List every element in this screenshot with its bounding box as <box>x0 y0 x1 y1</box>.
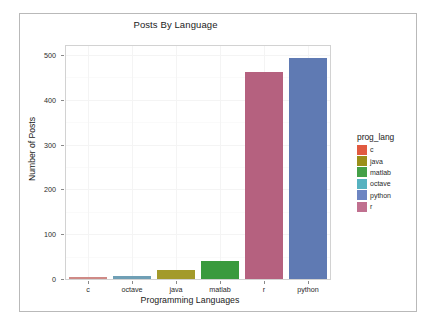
chart-title: Posts By Language <box>20 19 331 30</box>
legend-swatch-r <box>357 202 367 212</box>
y-tick-mark <box>61 55 64 56</box>
y-tick-label: 400 <box>30 95 56 104</box>
figure-frame: Posts By Language Number of Posts Progra… <box>19 13 417 312</box>
legend-label-r: r <box>370 203 372 210</box>
legend-entry-octave[interactable]: octave <box>357 178 394 189</box>
bar-octave <box>113 276 151 279</box>
y-tick-label: 100 <box>30 230 56 239</box>
x-tick-mark <box>264 281 265 284</box>
x-tick-mark <box>308 281 309 284</box>
gridline-vertical <box>88 46 89 279</box>
legend: prog_lang cjavamatlaboctavepythonr <box>357 132 394 212</box>
x-tick-label-c: c <box>86 285 90 294</box>
legend-swatch-python <box>357 190 367 200</box>
gridline-horizontal <box>66 279 330 280</box>
y-tick-label: 300 <box>30 140 56 149</box>
y-tick-mark <box>61 145 64 146</box>
legend-entry-python[interactable]: python <box>357 190 394 201</box>
y-tick-mark <box>61 189 64 190</box>
bar-c <box>69 277 107 279</box>
gridline-vertical <box>220 46 221 279</box>
x-tick-mark <box>132 281 133 284</box>
legend-entry-c[interactable]: c <box>357 144 394 155</box>
legend-entries: cjavamatlaboctavepythonr <box>357 144 394 212</box>
y-tick-mark <box>61 279 64 280</box>
bar-java <box>157 270 195 279</box>
x-tick-mark <box>220 281 221 284</box>
legend-entry-java[interactable]: java <box>357 155 394 166</box>
legend-swatch-java <box>357 156 367 166</box>
x-tick-label-python: python <box>297 285 319 294</box>
legend-entry-r[interactable]: r <box>357 201 394 212</box>
x-tick-label-r: r <box>263 285 265 294</box>
y-tick-label: 500 <box>30 50 56 59</box>
legend-title: prog_lang <box>357 132 394 142</box>
plot-panel <box>65 45 331 280</box>
y-tick-mark <box>61 100 64 101</box>
legend-label-matlab: matlab <box>370 169 391 176</box>
x-axis-title: Programming Languages <box>45 295 335 305</box>
legend-entry-matlab[interactable]: matlab <box>357 167 394 178</box>
x-tick-label-java: java <box>169 285 182 294</box>
bar-python <box>289 58 327 279</box>
legend-swatch-c <box>357 145 367 155</box>
legend-swatch-octave <box>357 179 367 189</box>
legend-label-c: c <box>370 146 374 153</box>
y-tick-label: 0 <box>30 275 56 284</box>
bar-r <box>245 72 283 279</box>
legend-swatch-matlab <box>357 167 367 177</box>
legend-label-octave: octave <box>370 180 391 187</box>
y-tick-label: 200 <box>30 185 56 194</box>
legend-label-python: python <box>370 192 391 199</box>
x-tick-label-matlab: matlab <box>209 285 231 294</box>
y-tick-mark <box>61 234 64 235</box>
legend-label-java: java <box>370 158 383 165</box>
gridline-vertical <box>176 46 177 279</box>
gridline-horizontal <box>66 55 330 56</box>
x-tick-mark <box>88 281 89 284</box>
x-tick-label-octave: octave <box>121 285 142 294</box>
gridline-vertical <box>132 46 133 279</box>
x-tick-mark <box>176 281 177 284</box>
bar-matlab <box>201 261 239 279</box>
